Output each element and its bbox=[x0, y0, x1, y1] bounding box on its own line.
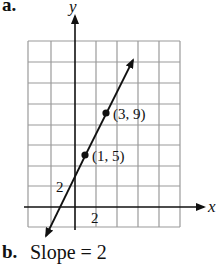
point-3-9-label: (3, 9) bbox=[113, 106, 146, 123]
y-tick-label: 2 bbox=[56, 179, 64, 195]
part-b-label: b. bbox=[2, 241, 17, 263]
grid bbox=[28, 41, 180, 227]
point-3-9 bbox=[102, 109, 109, 116]
x-tick-label: 2 bbox=[91, 210, 99, 226]
x-axis-label: x bbox=[207, 197, 216, 216]
point-1-5-label: (1, 5) bbox=[92, 148, 125, 165]
slope-answer: Slope = 2 bbox=[30, 241, 107, 264]
y-axis-label: y bbox=[67, 0, 77, 16]
coordinate-graph: y x 2 2 (1, 5) (3, 9) bbox=[0, 0, 224, 271]
point-1-5 bbox=[81, 151, 88, 158]
